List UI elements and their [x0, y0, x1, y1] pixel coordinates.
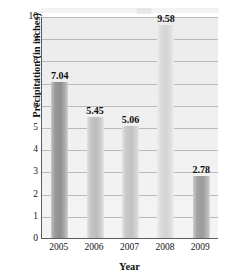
data-label-2005: 7.04 — [51, 71, 69, 81]
x-tick-label-2006: 2006 — [85, 243, 104, 253]
data-label-2006: 5.45 — [86, 106, 104, 116]
y-tick-label: 1 — [20, 212, 38, 222]
x-tick-label-2005: 2005 — [49, 243, 68, 253]
x-tick-label-2007: 2007 — [120, 243, 139, 253]
bar-2007 — [122, 126, 139, 238]
data-label-2008: 9.58 — [157, 14, 175, 24]
y-tick-label: 0 — [20, 234, 38, 244]
x-axis-tick-labels: 20052006200720082009 — [41, 243, 218, 257]
data-label-2009: 2.78 — [193, 165, 211, 175]
bar-2006 — [87, 117, 104, 238]
bar-2008 — [157, 25, 174, 238]
plot-area: 7.045.455.069.582.78 — [41, 17, 218, 239]
x-axis-title: Year — [41, 261, 218, 272]
x-tick-label-2008: 2008 — [155, 243, 174, 253]
y-tick-label: 10 — [20, 12, 38, 22]
y-tick-label: 9 — [20, 34, 38, 44]
bar-2005 — [51, 82, 68, 238]
top-edge-artifact — [41, 8, 219, 13]
y-axis-tick-labels: 012345678910 — [20, 17, 38, 239]
y-tick-label: 4 — [20, 145, 38, 155]
y-tick-label: 2 — [20, 190, 38, 200]
top-edge-artifact-mark — [137, 8, 151, 14]
y-tick-label: 8 — [20, 57, 38, 67]
y-tick-label: 6 — [20, 101, 38, 111]
y-tick-label: 3 — [20, 168, 38, 178]
data-label-2007: 5.06 — [122, 115, 140, 125]
bars-layer: 7.045.455.069.582.78 — [42, 17, 218, 238]
y-tick-label: 5 — [20, 123, 38, 133]
precipitation-bar-chart: Precipitation (in inches) 012345678910 7… — [0, 0, 241, 280]
x-tick-label-2009: 2009 — [191, 243, 210, 253]
bar-2009 — [193, 176, 210, 238]
y-tick-label: 7 — [20, 79, 38, 89]
